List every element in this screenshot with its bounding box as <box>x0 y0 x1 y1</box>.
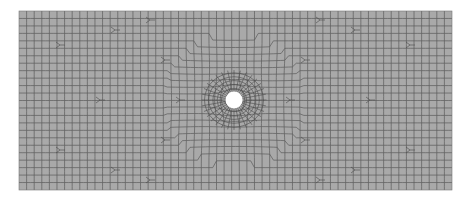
mesh-diagram <box>0 0 469 197</box>
central-hole <box>226 92 243 109</box>
